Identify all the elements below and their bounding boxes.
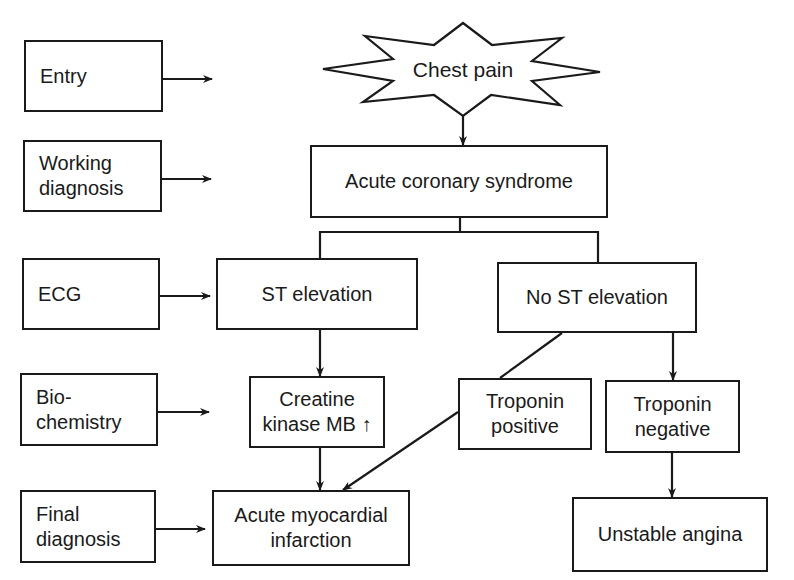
troponin-negative-label: Troponin negative — [633, 392, 711, 442]
troponin-positive-label: Troponin positive — [486, 389, 564, 439]
node-chest-pain: Chest pain — [393, 58, 533, 82]
unstable-angina-label: Unstable angina — [598, 522, 743, 547]
stage-final-diagnosis: Final diagnosis — [20, 490, 156, 563]
no-st-elevation-label: No ST elevation — [526, 285, 668, 310]
node-acute-coronary-syndrome: Acute coronary syndrome — [310, 145, 608, 218]
stage-biochem-label: Bio- chemistry — [36, 385, 122, 435]
stage-ecg-label: ECG — [38, 282, 81, 307]
acs-label: Acute coronary syndrome — [345, 169, 573, 194]
node-st-elevation: ST elevation — [216, 258, 418, 330]
node-creatine-kinase-mb: Creatine kinase MB ↑ — [249, 376, 385, 448]
stage-final-label: Final diagnosis — [36, 502, 121, 552]
stage-entry-label: Entry — [40, 64, 87, 89]
ck-mb-label: Creatine kinase MB ↑ — [263, 387, 372, 437]
stage-working-diagnosis: Working diagnosis — [23, 140, 162, 212]
stage-entry: Entry — [24, 40, 163, 112]
node-acute-myocardial-infarction: Acute myocardial infarction — [212, 490, 410, 566]
node-unstable-angina: Unstable angina — [572, 497, 768, 572]
node-no-st-elevation: No ST elevation — [497, 262, 697, 333]
st-elevation-label: ST elevation — [262, 282, 373, 307]
stage-working-label: Working diagnosis — [39, 151, 124, 201]
ami-label: Acute myocardial infarction — [234, 503, 387, 553]
node-troponin-positive: Troponin positive — [458, 378, 592, 450]
node-troponin-negative: Troponin negative — [605, 380, 740, 453]
stage-biochemistry: Bio- chemistry — [20, 373, 158, 446]
stage-ecg: ECG — [22, 258, 160, 330]
